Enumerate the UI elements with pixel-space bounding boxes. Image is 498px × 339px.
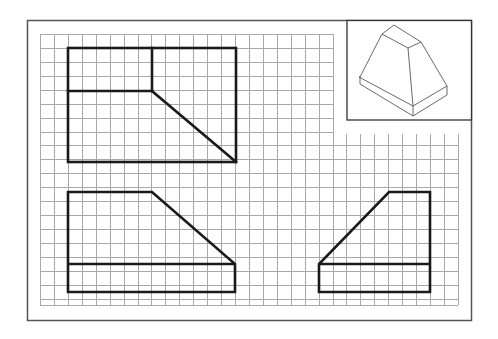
iso-inset: [347, 21, 472, 121]
drawing-canvas: [0, 0, 498, 339]
